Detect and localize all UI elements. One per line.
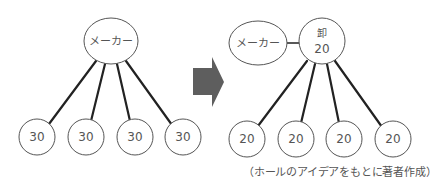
- edge-wholesaler-retailer-2: [301, 64, 315, 123]
- right-arrow-icon: [193, 57, 224, 107]
- edge-maker-retailer-3: [117, 64, 130, 121]
- before-retailer-value: 30: [175, 130, 190, 144]
- after-retailer-node: 20: [278, 121, 314, 157]
- before-retailer-value: 30: [78, 130, 93, 144]
- after-maker-label: メーカー: [236, 37, 280, 50]
- edge-maker-retailer-1: [49, 61, 96, 124]
- after-maker-node: メーカー: [229, 21, 287, 65]
- edge-wholesaler-retailer-3: [327, 64, 339, 123]
- before-retailer-node: 30: [19, 119, 55, 155]
- after-retailer-value: 20: [288, 132, 303, 146]
- before-retailer-value: 30: [127, 130, 142, 144]
- edge-wholesaler-retailer-4: [335, 61, 382, 127]
- before-retailer-value: 30: [29, 130, 44, 144]
- after-retailer-value: 20: [239, 132, 254, 146]
- before-retailer-node: 30: [165, 119, 201, 155]
- wholesaler-label: 卸: [317, 27, 327, 39]
- after-retailer-node: 20: [375, 121, 411, 157]
- before-edges: [49, 61, 172, 125]
- source-caption: （ホールのアイデアをもとに著者作成）: [243, 163, 430, 179]
- after-retailer-value: 20: [385, 132, 400, 146]
- before-maker-label: メーカー: [89, 35, 133, 48]
- diagram-canvas: メーカー 30 30 30 30 メーカー 卸 20 20: [0, 0, 430, 188]
- wholesaler-value: 20: [314, 42, 329, 56]
- edge-wholesaler-retailer-1: [258, 61, 307, 126]
- edge-maker-retailer-4: [126, 61, 172, 125]
- after-wholesaler-node: 卸 20: [299, 18, 345, 64]
- before-retailer-node: 30: [117, 119, 153, 155]
- after-retailer-node: 20: [229, 121, 265, 157]
- after-retailer-node: 20: [326, 121, 362, 157]
- before-maker-node: メーカー: [84, 18, 138, 64]
- edge-maker-retailer-2: [91, 64, 105, 121]
- before-retailer-node: 30: [68, 119, 104, 155]
- after-retailer-value: 20: [336, 132, 351, 146]
